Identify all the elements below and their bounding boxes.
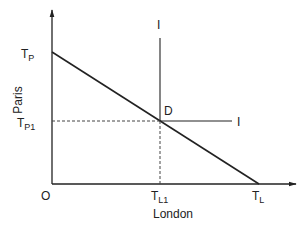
transformation-line: [52, 52, 259, 184]
label-tp: TP: [21, 47, 34, 63]
label-tl: TL: [252, 189, 264, 205]
diagram: TP TP1 D I I O TL1 TL London Paris: [0, 0, 308, 227]
label-d: D: [164, 104, 173, 118]
x-axis-label: London: [153, 207, 193, 221]
label-tp1: TP1: [17, 116, 35, 132]
label-tl1: TL1: [151, 189, 168, 205]
label-indifference-right: I: [237, 115, 240, 129]
label-indifference-top: I: [157, 18, 160, 32]
label-origin: O: [41, 189, 50, 203]
y-axis-label: Paris: [11, 86, 25, 113]
